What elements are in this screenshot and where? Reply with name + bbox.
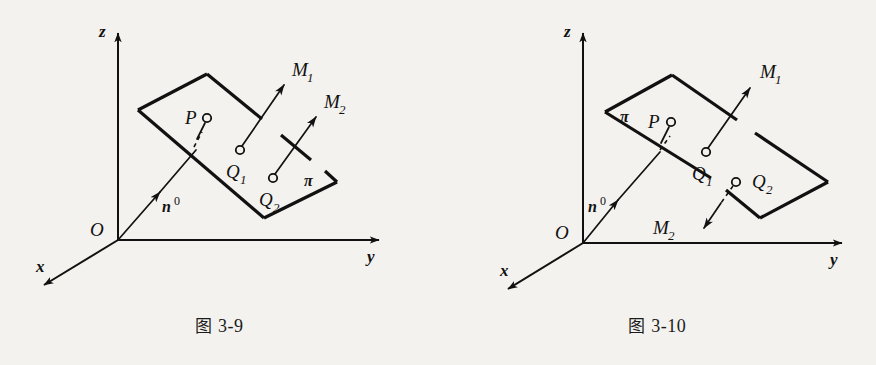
- point-q2-label: Q: [752, 171, 766, 192]
- plane-edge-lower-left-a: [726, 190, 760, 218]
- normal-vector-label: n: [588, 198, 597, 215]
- point-p-label: P: [647, 111, 660, 132]
- point-q2-subscript: 2: [273, 200, 280, 215]
- plane-label-pi: π: [304, 172, 314, 189]
- point-q2-marker: [269, 174, 277, 182]
- plane-edge-lower-left: [138, 110, 264, 218]
- point-q1-label: Q: [226, 161, 240, 182]
- figure-3-10-canvas: z y x O n 0: [438, 0, 876, 310]
- normal-vector-arrow: [118, 192, 160, 240]
- vector-m1-subscript: 1: [775, 72, 782, 87]
- x-axis-label: x: [35, 257, 45, 276]
- plane-edge-upper-right-c: [325, 171, 337, 182]
- point-p-marker: [667, 118, 675, 126]
- normal-vector-extension: [618, 152, 660, 200]
- figure-3-10-caption: 图 3-10: [438, 312, 876, 337]
- origin-label: O: [90, 219, 104, 240]
- z-axis-label: z: [98, 22, 106, 41]
- normal-vector-superscript: 0: [174, 194, 180, 208]
- caption-number: 3-10: [651, 316, 686, 336]
- y-axis-label: y: [828, 250, 838, 269]
- point-p-marker: [203, 114, 211, 122]
- caption-prefix: 图: [628, 316, 646, 336]
- vector-m2-arrow: [704, 203, 721, 228]
- point-p-label: P: [184, 107, 197, 128]
- point-p-stem: [197, 123, 205, 139]
- figure-3-9-canvas: z y x O n 0: [0, 0, 438, 310]
- origin-label: O: [555, 222, 569, 243]
- point-q1-subscript: 1: [240, 172, 247, 187]
- caption-number: 3-9: [218, 316, 244, 336]
- point-q1-label: Q: [692, 163, 706, 184]
- point-p-stem: [661, 127, 669, 143]
- figure-3-9: z y x O n 0: [0, 0, 438, 365]
- point-q2-marker: [732, 178, 740, 186]
- point-q1-subscript: 1: [706, 174, 713, 189]
- normal-vector-label: n: [162, 198, 171, 215]
- figure-page: z y x O n 0: [0, 0, 876, 365]
- vector-m1-subscript: 1: [307, 70, 314, 85]
- z-axis-label: z: [563, 22, 571, 41]
- plane-label-pi: π: [620, 108, 630, 125]
- vector-m2-arrow: [275, 117, 316, 174]
- point-q2-subscript: 2: [766, 182, 773, 197]
- vector-m1-arrow: [708, 88, 750, 148]
- plane-edge-upper-left: [138, 74, 207, 110]
- vector-m2-subscript: 2: [339, 102, 346, 117]
- plane-edge-upper-right-a: [672, 75, 737, 120]
- vector-m1-arrow: [242, 85, 284, 146]
- figure-3-9-caption: 图 3-9: [0, 312, 438, 337]
- point-q1-marker: [236, 146, 244, 154]
- plane-edge-upper-right-b: [755, 133, 828, 182]
- plane-edge-upper-right-b: [281, 135, 311, 160]
- y-axis-label: y: [365, 247, 375, 266]
- caption-prefix: 图: [195, 316, 213, 336]
- figure-3-10: z y x O n 0: [438, 0, 876, 365]
- vector-m2-subscript: 2: [668, 228, 675, 243]
- x-axis: [508, 243, 583, 289]
- plane-edge-upper-left: [605, 75, 672, 112]
- normal-vector-superscript: 0: [600, 194, 606, 208]
- plane-edge-upper-right-a: [207, 74, 262, 119]
- point-q1-marker: [702, 148, 710, 156]
- x-axis-label: x: [499, 261, 509, 280]
- x-axis: [44, 240, 118, 285]
- normal-vector-dashed-to-p: [194, 132, 202, 147]
- point-q2-label: Q: [259, 189, 273, 210]
